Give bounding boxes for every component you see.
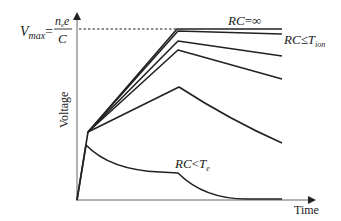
curve-rc-lt-te [77, 145, 282, 200]
rc-text: RC [174, 156, 192, 171]
pulse-shape-diagram: Time Voltage Vmax = nee C RC=∞ RC≤Tion R… [0, 0, 341, 221]
svg-text:Vmax: Vmax [20, 24, 46, 41]
y-axis-label: Voltage [57, 92, 71, 128]
rhs-sub: ion [315, 40, 325, 49]
rc-text: RC [227, 13, 245, 28]
rhs-text: ∞ [252, 13, 261, 28]
rc-text: RC [283, 32, 301, 47]
op-text: < [192, 156, 199, 171]
op-text: ≤ [301, 32, 308, 47]
label-rc-le-tion: RC≤Tion [283, 32, 325, 49]
vmax-equals: = [45, 24, 53, 39]
vmax-sub: max [29, 30, 46, 41]
label-rc-lt-te: RC<Te [174, 156, 210, 173]
label-rc-infinite: RC=∞ [227, 13, 261, 28]
svg-text:nee: nee [55, 14, 70, 29]
vmax-c: C [58, 31, 67, 46]
curve-rc-small [88, 87, 282, 143]
x-axis-label: Time [294, 203, 319, 217]
vmax-formula: Vmax = nee C [20, 14, 72, 46]
rhs-sub: e [206, 164, 210, 173]
vmax-e: e [64, 14, 70, 28]
op-text: = [245, 13, 252, 28]
